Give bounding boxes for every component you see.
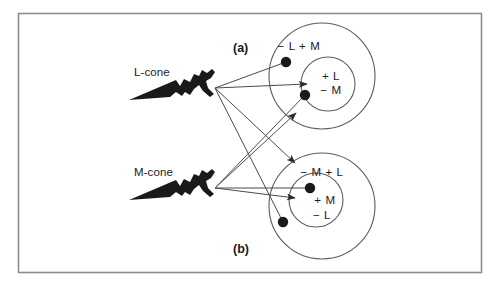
panel-a-center-label-line2: − M — [320, 84, 341, 96]
figure-frame — [19, 14, 482, 273]
panel-a-label: (a) — [233, 41, 248, 55]
synapse-dot-a-surround — [281, 57, 291, 67]
figure-root: L-cone M-cone (a) (b) − L + M + L − M − … — [0, 0, 500, 287]
panel-b-center-label-line1: + M — [314, 194, 335, 206]
panel-b-surround-label: − M + L — [300, 166, 343, 178]
synapse-dot-b-surround — [278, 217, 288, 227]
panel-b-label: (b) — [233, 242, 249, 256]
l-cone-label: L-cone — [134, 66, 170, 78]
panel-a-center-label-line1: + L — [322, 70, 340, 82]
synapse-dot-b-center — [305, 183, 315, 193]
synapse-dot-a-center — [300, 90, 310, 100]
m-cone-label: M-cone — [134, 166, 173, 178]
panel-a-surround-label: − L + M — [278, 40, 321, 52]
receptive-field-diagram: L-cone M-cone (a) (b) − L + M + L − M − … — [0, 0, 500, 287]
panel-b-center-label-line2: − L — [313, 209, 331, 221]
